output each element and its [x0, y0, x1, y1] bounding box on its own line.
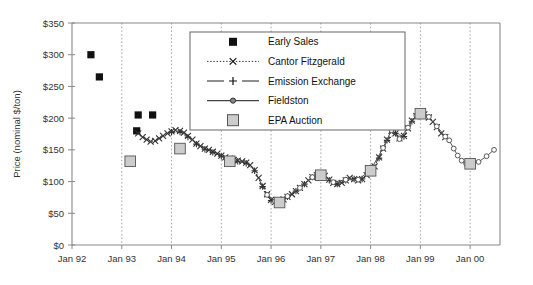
legend-circle-marker-icon [230, 98, 235, 103]
legend-item-fieldston[interactable]: Fieldston [191, 91, 404, 111]
x-tick-label: Jan 94 [157, 253, 186, 264]
epa-auction-marker [274, 197, 285, 208]
x-tick-label: Jan 96 [257, 253, 286, 264]
y-tick-label: $300 [43, 49, 64, 60]
chart-container: $0$50$100$150$200$250$300$350 Jan 92Jan … [0, 0, 533, 285]
legend-item-label: Emission Exchange [268, 76, 356, 87]
legend-gray-square-icon [228, 115, 239, 126]
epa-auction-marker [224, 156, 235, 167]
epa-auction-marker [415, 108, 426, 119]
fieldston-marker [476, 160, 481, 165]
price-history-line-chart: $0$50$100$150$200$250$300$350 Jan 92Jan … [0, 0, 533, 285]
early-sales-marker [149, 111, 156, 118]
early-sales-marker [96, 73, 103, 80]
fieldston-marker [331, 180, 336, 185]
fieldston-marker [381, 146, 386, 151]
epa-auction-marker [316, 170, 327, 181]
legend-item-label: Early Sales [268, 36, 319, 47]
x-tick-label: Jan 97 [307, 253, 336, 264]
legend-filled-square-icon [229, 38, 237, 46]
y-tick-label: $50 [48, 208, 64, 219]
legend-item-cantor-fitzgerald[interactable]: Cantor Fitzgerald [191, 52, 404, 72]
chart-legend: Early SalesCantor FitzgeraldEmission Exc… [190, 32, 405, 130]
x-tick-label: Jan 92 [58, 253, 87, 264]
early-sales-marker [133, 127, 140, 134]
fieldston-marker [426, 114, 431, 119]
x-tick-label: Jan 95 [207, 253, 236, 264]
fieldston-marker [492, 147, 497, 152]
fieldston-marker [298, 186, 303, 191]
y-tick-label: $0 [53, 240, 64, 251]
x-tick-label: Jan 00 [456, 253, 485, 264]
y-tick-label: $150 [43, 144, 64, 155]
fieldston-marker [484, 154, 489, 159]
fieldston-marker [455, 153, 460, 158]
y-tick-label: $250 [43, 81, 64, 92]
fieldston-marker [459, 158, 464, 163]
fieldston-marker [451, 146, 456, 151]
legend-item-emission-exchange[interactable]: Emission Exchange [191, 71, 404, 91]
fieldston-marker [406, 125, 411, 130]
fieldston-marker [310, 175, 315, 180]
legend-item-label: Cantor Fitzgerald [268, 56, 345, 67]
legend-item-label: EPA Auction [268, 115, 322, 126]
y-tick-label: $200 [43, 113, 64, 124]
epa-auction-marker [465, 159, 476, 170]
y-tick-label: $100 [43, 176, 64, 187]
fieldston-marker [356, 177, 361, 182]
fieldston-marker [343, 177, 348, 182]
x-tick-label: Jan 99 [406, 253, 435, 264]
early-sales-marker [135, 111, 142, 118]
fieldston-marker [447, 138, 452, 143]
y-axis-title: Price (nominal $/ton) [11, 90, 22, 178]
early-sales-marker [87, 51, 94, 58]
x-tick-label: Jan 93 [108, 253, 137, 264]
legend-item-label: Fieldston [268, 95, 309, 106]
fieldston-marker [443, 134, 448, 139]
fieldston-marker [434, 124, 439, 129]
fieldston-marker [265, 192, 270, 197]
epa-auction-marker [175, 143, 186, 154]
y-tick-label: $350 [43, 18, 64, 29]
x-axis-tick-labels: Jan 92Jan 93Jan 94Jan 95Jan 96Jan 97Jan … [58, 253, 485, 264]
epa-auction-marker [125, 156, 136, 167]
x-tick-label: Jan 98 [356, 253, 385, 264]
fieldston-marker [397, 137, 402, 142]
epa-auction-marker [365, 165, 376, 176]
legend-item-early-sales[interactable]: Early Sales [191, 32, 404, 52]
fieldston-marker [285, 194, 290, 199]
legend-item-epa-auction[interactable]: EPA Auction [191, 110, 404, 130]
